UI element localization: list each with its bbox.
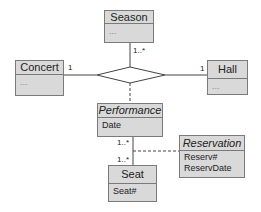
class-name: Seat <box>109 166 156 184</box>
multiplicity-season: 1..* <box>133 46 145 55</box>
class-attribute: Reserv# <box>184 152 240 163</box>
class-concert: Concert ... <box>15 60 64 96</box>
multiplicity-concert: 1 <box>68 63 72 72</box>
class-seat: Seat Seat# <box>108 165 157 202</box>
class-attribute: Date <box>98 118 162 133</box>
class-name: Hall <box>208 61 247 79</box>
multiplicity-seat-performance: 1..* <box>117 155 129 164</box>
class-attribute: ... <box>105 24 153 39</box>
multiplicity-hall: 1 <box>200 64 204 73</box>
class-attribute: ... <box>208 79 247 94</box>
class-season: Season ... <box>104 10 154 43</box>
class-attribute: Seat# <box>109 184 156 199</box>
class-name: Concert <box>16 61 63 75</box>
class-reservation: Reservation Reserv# ReservDate <box>179 135 245 178</box>
class-hall: Hall ... <box>207 60 248 95</box>
class-attribute: ... <box>16 75 63 90</box>
association-diamond <box>97 67 165 83</box>
class-attribute: ReservDate <box>184 163 240 174</box>
class-name: Performance <box>98 104 162 118</box>
class-performance: Performance Date <box>97 103 163 137</box>
multiplicity-performance-seat: 1..* <box>117 138 129 147</box>
class-name: Reservation <box>180 136 244 151</box>
class-name: Season <box>105 11 153 24</box>
